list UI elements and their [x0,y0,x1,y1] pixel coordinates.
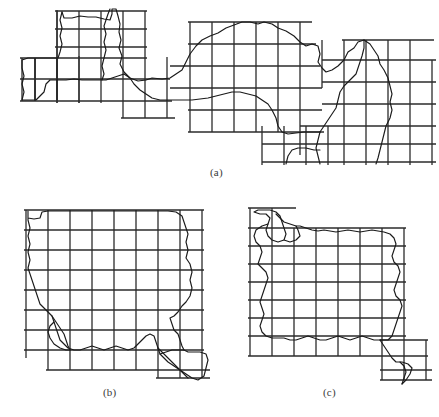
panel-b-grid [24,210,210,378]
panel-b: (b) [8,200,223,385]
panel-c-svg [228,200,439,385]
panel-a-grid [13,8,436,165]
panel-b-caption: (b) [103,386,116,398]
panel-b-boundary [28,211,208,380]
panel-c-boundary [254,210,412,384]
panel-c-caption: (c) [323,386,336,398]
panel-a-svg [0,0,439,165]
panel-c: (c) [228,200,439,385]
panel-a: (a) [0,0,439,165]
figure-container: (a) [0,0,439,417]
panel-b-svg [8,200,223,385]
panel-c-grid [248,208,432,380]
panel-a-boundary [22,9,392,164]
panel-a-caption: (a) [210,166,223,178]
